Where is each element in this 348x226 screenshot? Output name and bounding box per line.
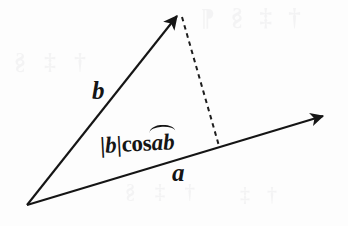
vector-projection-figure: † ‡ § ¶ † ‡ § † ‡ § † ‡ b a |b|cosab xyxy=(0,0,348,226)
vector-a-label: a xyxy=(172,160,185,185)
vector-b-label: b xyxy=(92,78,105,103)
vector-b-arrow xyxy=(27,16,177,205)
cosine-function-label: cos xyxy=(121,130,152,157)
diagram-canvas xyxy=(0,0,348,226)
angle-ab-notation: ab xyxy=(150,130,175,154)
projection-drop-dashed-line xyxy=(182,17,219,146)
projection-length-label: |b|cosab xyxy=(99,130,175,157)
